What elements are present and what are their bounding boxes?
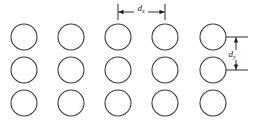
- diagram-canvas: dx dy: [0, 0, 261, 130]
- hole-circle-r1c4: [152, 24, 178, 50]
- hole-circle-r1c1: [11, 24, 37, 50]
- hole-circle-r1c5: [200, 24, 226, 50]
- dx-label-subscript: x: [141, 8, 145, 14]
- hole-circle-r3c2: [58, 90, 84, 116]
- hole-circle-r3c3: [105, 90, 131, 116]
- hole-circle-r3c4: [152, 90, 178, 116]
- hole-circle-r3c5: [200, 90, 226, 116]
- hole-circle-r1c2: [58, 24, 84, 50]
- hole-circle-r1c3: [105, 24, 131, 50]
- hole-circle-r2c5: [200, 57, 226, 83]
- dy-label-subscript: y: [232, 54, 236, 60]
- hole-circle-r3c1: [11, 90, 37, 116]
- hole-array-diagram: dx dy: [0, 0, 261, 130]
- hole-circle-r2c4: [152, 57, 178, 83]
- hole-circle-r2c2: [58, 57, 84, 83]
- hole-circle-r2c3: [105, 57, 131, 83]
- hole-circle-r2c1: [11, 57, 37, 83]
